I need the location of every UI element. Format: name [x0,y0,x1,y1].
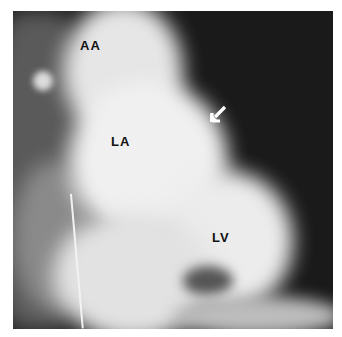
dark-notch [183,266,233,296]
label-lv: LV [212,230,230,245]
bottom-band [173,296,333,329]
bright-spot [33,71,53,91]
label-la: LA [111,134,130,149]
label-aa: AA [80,38,101,53]
angiogram-image: AA LA LV [13,11,333,329]
arrow-icon [209,105,227,123]
